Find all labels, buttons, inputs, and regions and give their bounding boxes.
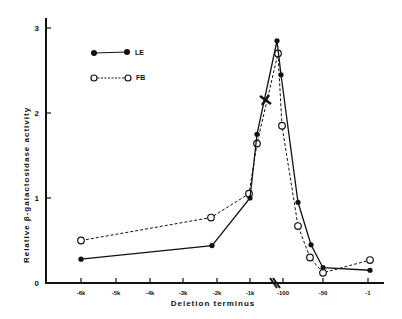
- filled-circle-icon: [367, 268, 372, 273]
- open-circle-icon: [279, 122, 286, 129]
- y-axis-title: Relative β-galactosidase activity: [22, 107, 31, 263]
- chart-canvas: 0123 -6k-5k-4k-3k-2k-1k-100-50-1 Deletio…: [0, 0, 402, 319]
- filled-circle-icon: [209, 243, 214, 248]
- x-tick-label: -6k: [77, 290, 86, 296]
- filled-circle-icon: [247, 195, 252, 200]
- filled-circle-icon: [320, 265, 325, 270]
- series-line: [81, 41, 370, 271]
- x-tick-label: -100: [277, 290, 290, 296]
- axes: [45, 18, 384, 284]
- open-circle-icon: [78, 237, 85, 244]
- filled-circle-icon: [254, 132, 259, 137]
- open-circle-icon: [367, 257, 374, 264]
- open-circle-icon: [295, 223, 302, 230]
- open-circle-icon: [254, 140, 261, 147]
- legend: LE FB: [91, 49, 145, 81]
- x-tick-label: -50: [319, 290, 328, 296]
- legend-item-le: LE: [91, 49, 144, 56]
- x-tick-label: -1k: [246, 290, 255, 296]
- x-tick-label: -2k: [213, 290, 222, 296]
- y-tick-label: 2: [35, 109, 40, 118]
- y-tick-label: 0: [35, 279, 40, 288]
- y-tick-label: 1: [35, 194, 40, 203]
- filled-circle-icon: [278, 72, 283, 77]
- x-ticks: -6k-5k-4k-3k-2k-1k-100-50-1: [77, 278, 372, 296]
- legend-label-fb: FB: [136, 74, 145, 81]
- legend-item-fb: FB: [91, 74, 145, 81]
- x-tick-label: -1: [365, 290, 371, 296]
- filled-circle-icon: [308, 242, 313, 247]
- series-fb: [78, 50, 374, 276]
- series-le: [78, 38, 372, 273]
- x-tick-label: -3k: [179, 290, 188, 296]
- series-line: [81, 54, 370, 273]
- open-circle-icon: [208, 214, 215, 221]
- filled-circle-icon: [91, 50, 97, 56]
- open-circle-icon: [91, 75, 97, 81]
- x-axis-title: Deletion terminus: [171, 299, 256, 308]
- filled-circle-icon: [124, 49, 130, 55]
- x-tick-label: -4k: [146, 290, 155, 296]
- filled-circle-icon: [78, 257, 83, 262]
- x-tick-label: -5k: [112, 290, 121, 296]
- y-ticks: 0123: [35, 24, 51, 288]
- y-tick-label: 3: [35, 24, 40, 33]
- filled-circle-icon: [274, 38, 279, 43]
- open-circle-icon: [125, 75, 131, 81]
- legend-label-le: LE: [135, 49, 144, 56]
- filled-circle-icon: [295, 200, 300, 205]
- open-circle-icon: [320, 270, 327, 277]
- open-circle-icon: [307, 254, 314, 261]
